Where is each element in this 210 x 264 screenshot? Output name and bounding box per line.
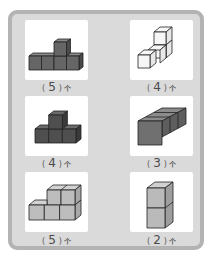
close-paren: ) <box>164 237 167 246</box>
close-paren: ) <box>59 84 62 93</box>
open-paren: ( <box>42 237 45 246</box>
answer-label-4: (3)个 <box>130 156 193 170</box>
answer-value: 4 <box>48 156 56 170</box>
open-paren: ( <box>42 84 45 93</box>
figure-tile-6 <box>130 172 193 232</box>
close-paren: ) <box>164 84 167 93</box>
answer-value: 3 <box>153 156 161 170</box>
answer-label-2: (4)个 <box>130 80 193 94</box>
open-paren: ( <box>147 160 150 169</box>
open-paren: ( <box>147 84 150 93</box>
open-paren: ( <box>42 160 45 169</box>
answer-value: 5 <box>48 233 56 247</box>
close-paren: ) <box>59 237 62 246</box>
unit-label: 个 <box>169 238 176 246</box>
answer-label-1: (5)个 <box>25 80 88 94</box>
close-paren: ) <box>59 160 62 169</box>
answer-value: 2 <box>153 233 161 247</box>
cube-figure-step-5-icon <box>25 172 88 232</box>
answer-label-3: (4)个 <box>25 156 88 170</box>
unit-label: 个 <box>64 85 71 93</box>
figure-tile-5 <box>25 172 88 232</box>
cube-figure-column-of-2-icon <box>130 172 193 232</box>
answer-value: 4 <box>153 80 161 94</box>
answer-label-6: (2)个 <box>130 233 193 247</box>
open-paren: ( <box>147 237 150 246</box>
unit-label: 个 <box>169 85 176 93</box>
unit-label: 个 <box>64 238 71 246</box>
figure-tile-4 <box>130 96 193 156</box>
cube-figure-t-shape-5-icon <box>25 20 88 80</box>
cube-figure-row-of-3-icon <box>130 96 193 156</box>
unit-label: 个 <box>64 161 71 169</box>
answer-label-5: (5)个 <box>25 233 88 247</box>
answer-value: 5 <box>48 80 56 94</box>
close-paren: ) <box>164 160 167 169</box>
cube-figure-staircase-icon <box>130 20 193 80</box>
figure-tile-1 <box>25 20 88 80</box>
cube-figure-t-shape-4-icon <box>25 96 88 156</box>
unit-label: 个 <box>169 161 176 169</box>
figure-tile-3 <box>25 96 88 156</box>
figure-tile-2 <box>130 20 193 80</box>
